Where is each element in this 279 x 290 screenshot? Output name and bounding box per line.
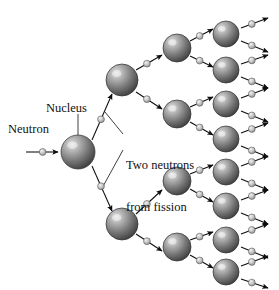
neutron-particle: [248, 21, 255, 28]
sphere-highlight: [218, 232, 226, 238]
neutron-particle: [196, 233, 203, 240]
neutron-particle: [248, 214, 255, 221]
neutron-particle: [248, 227, 255, 234]
sphere-highlight: [218, 198, 226, 204]
neutron-arrow: [241, 156, 268, 166]
neutron-particle: [196, 33, 203, 40]
fission-chain-reaction-figure: Neutron Nucleus Two neutrons from fissio…: [0, 0, 279, 290]
neutron-arrow: [241, 190, 268, 200]
neutron-particle: [248, 180, 255, 187]
neutron-particle: [248, 91, 255, 98]
neutron-arrow: [26, 149, 58, 156]
neutron-particle: [248, 259, 255, 266]
nucleus-sphere: [61, 135, 95, 169]
sphere-highlight: [168, 105, 176, 111]
neutron-arrow: [190, 97, 213, 107]
sphere-highlight: [218, 264, 226, 270]
neutron-particle: [248, 126, 255, 133]
neutron-arrow: [241, 18, 268, 28]
neutron-arrow: [136, 92, 162, 109]
sphere-highlight: [218, 164, 226, 170]
neutron-particle: [248, 248, 255, 255]
label-neutron: Neutron: [8, 122, 49, 136]
nucleus-sphere: [213, 193, 239, 219]
sphere-highlight: [168, 39, 176, 45]
nucleus-sphere: [213, 57, 239, 83]
neutron-arrow: [241, 123, 268, 133]
nucleus-sphere: [163, 100, 191, 128]
neutron-arrow: [92, 166, 112, 211]
neutron-particle: [248, 159, 255, 166]
neutron-arrow: [241, 247, 268, 258]
sphere-highlight: [218, 96, 226, 102]
sphere-highlight: [218, 26, 226, 32]
nucleus-sphere: [213, 159, 239, 185]
neutron-particle: [248, 112, 255, 119]
neutron-particle: [248, 193, 255, 200]
nucleus-sphere: [213, 259, 239, 285]
nucleus-sphere: [213, 21, 239, 47]
neutron-particle: [196, 257, 203, 264]
neutron-particle: [196, 99, 203, 106]
nucleus-sphere: [163, 34, 191, 62]
neutron-arrow: [241, 55, 268, 64]
neutron-particle: [248, 57, 255, 64]
nucleus-sphere: [213, 227, 239, 253]
neutron-particle: [39, 149, 46, 156]
neutron-particle: [196, 167, 203, 174]
neutron-arrow: [190, 56, 213, 67]
neutron-arrow: [241, 41, 268, 52]
neutron-particle: [144, 60, 151, 67]
sphere-highlight: [112, 214, 122, 221]
nucleus-sphere: [213, 126, 239, 152]
leader-line: [105, 112, 123, 134]
leader-line: [101, 150, 123, 190]
neutron-arrow: [241, 88, 268, 98]
neutron-arrow: [241, 146, 268, 157]
neutron-particle: [196, 124, 203, 131]
sphere-highlight: [112, 70, 122, 77]
nucleus-sphere: [106, 64, 138, 96]
label-two-neutrons-from-fission: Two neutrons from fission: [126, 130, 194, 242]
neutron-arrow: [241, 256, 268, 266]
neutron-arrow: [241, 213, 268, 224]
neutron-particle: [248, 147, 255, 154]
neutron-particle: [196, 57, 203, 64]
neutron-particle: [98, 116, 105, 123]
neutron-arrow: [190, 29, 213, 41]
neutron-particle: [196, 191, 203, 198]
neutron-particle: [98, 183, 105, 190]
neutron-particle: [248, 78, 255, 85]
nucleus-sphere: [213, 91, 239, 117]
sphere-highlight: [67, 141, 77, 148]
neutron-arrow: [241, 77, 268, 88]
fission-label-line-2: from fission: [126, 200, 194, 214]
neutron-particle: [248, 42, 255, 49]
neutron-arrow: [241, 179, 268, 190]
neutron-arrow: [190, 255, 213, 268]
label-nucleus: Nucleus: [46, 101, 87, 115]
neutron-arrow: [136, 55, 162, 70]
neutron-arrow: [241, 224, 268, 234]
neutron-arrow: [241, 279, 268, 288]
sphere-highlight: [218, 62, 226, 68]
sphere-highlight: [218, 131, 226, 137]
neutron-arrow: [241, 111, 268, 122]
fission-label-line-1: Two neutrons: [126, 158, 194, 172]
neutron-particle: [248, 279, 255, 286]
neutron-particle: [144, 96, 151, 103]
